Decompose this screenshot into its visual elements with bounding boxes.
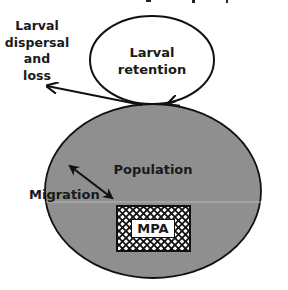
migration-label: Migration — [29, 187, 105, 203]
dispersal-label: Larval dispersal and loss — [2, 18, 72, 84]
mpa-label: MPA — [131, 219, 175, 238]
dispersal-label-line4: loss — [2, 68, 72, 85]
larval-retention-line2: retention — [112, 61, 192, 78]
dispersal-label-line1: Larval — [2, 18, 72, 35]
population-label: Population — [105, 162, 201, 178]
larval-retention-line1: Larval — [112, 44, 192, 61]
dispersal-label-line2: dispersal — [2, 35, 72, 52]
dispersal-label-line3: and — [2, 51, 72, 68]
larval-retention-label: Larval retention — [112, 44, 192, 78]
cropped-title-fragments — [146, 0, 228, 3]
